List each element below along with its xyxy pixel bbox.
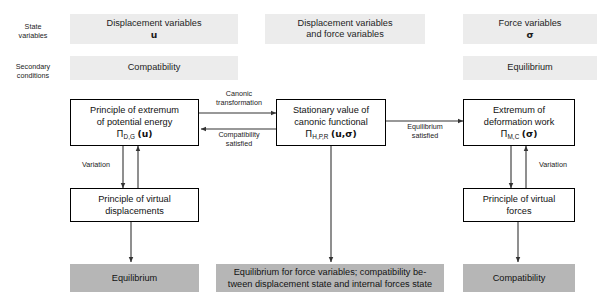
banner-displacement-variables-symbol: u bbox=[107, 29, 202, 41]
row-label-secondary-conditions: Secondary conditions bbox=[4, 62, 62, 80]
caption-compatibility-satisfied: Compatibility satisfied bbox=[204, 131, 274, 148]
caption-compatibility-satisfied-line2: satisfied bbox=[204, 140, 274, 149]
row-label-state-variables-line2: variables bbox=[4, 31, 62, 40]
banner-compatibility: Compatibility bbox=[70, 56, 238, 80]
banner-displacement-and-force-variables: Displacement variables and force variabl… bbox=[265, 14, 425, 44]
row-label-secondary-conditions-line1: Secondary bbox=[4, 62, 62, 71]
node-potential-energy-formula: ΠD,G (u) bbox=[71, 128, 198, 141]
node-deformation-work-pi: Π bbox=[501, 128, 508, 139]
banner-compatibility-label: Compatibility bbox=[128, 62, 181, 74]
node-deformation-work[interactable]: Extremum of deformation work ΠM,C (σ) bbox=[463, 99, 575, 146]
caption-canonic-transformation: Canonic transformation bbox=[204, 90, 274, 107]
result-compatibility: Compatibility bbox=[463, 264, 575, 292]
banner-displacement-variables-line1: Displacement variables bbox=[107, 18, 202, 30]
node-canonic-functional-line1: Stationary value of bbox=[277, 104, 385, 116]
node-deformation-work-formula: ΠM,C (σ) bbox=[464, 128, 574, 141]
banner-displacement-and-force-variables-line1: Displacement variables bbox=[298, 18, 393, 30]
banner-displacement-and-force-variables-line2: and force variables bbox=[298, 29, 393, 41]
node-potential-energy-subscript: D,G bbox=[124, 133, 135, 140]
banner-equilibrium-label: Equilibrium bbox=[507, 62, 552, 74]
connector-layer bbox=[0, 0, 611, 300]
node-potential-energy[interactable]: Principle of extremum of potential energ… bbox=[70, 99, 199, 146]
node-virtual-forces-line1: Principle of virtual bbox=[464, 193, 574, 205]
result-equilibrium: Equilibrium bbox=[70, 264, 199, 292]
node-deformation-work-line1: Extremum of bbox=[464, 104, 574, 116]
node-deformation-work-args: (σ) bbox=[522, 128, 538, 139]
caption-variation-left-label: Variation bbox=[73, 161, 119, 170]
node-virtual-forces[interactable]: Principle of virtual forces bbox=[463, 188, 575, 222]
caption-variation-left: Variation bbox=[73, 161, 119, 170]
caption-variation-right-label: Variation bbox=[530, 161, 576, 170]
node-deformation-work-subscript: M,C bbox=[508, 133, 520, 140]
node-virtual-displacements-line2: displacements bbox=[71, 205, 198, 217]
result-mixed: Equilibrium for force variables; compati… bbox=[216, 264, 444, 292]
node-deformation-work-line2: deformation work bbox=[464, 116, 574, 128]
variational-principles-diagram: State variables Secondary conditions Dis… bbox=[0, 0, 611, 300]
row-label-state-variables: State variables bbox=[4, 22, 62, 40]
result-compatibility-label: Compatibility bbox=[493, 272, 546, 284]
node-potential-energy-args: (u) bbox=[137, 128, 152, 139]
caption-variation-right: Variation bbox=[530, 161, 576, 170]
caption-equilibrium-satisfied: Equilibrium satisfied bbox=[390, 123, 460, 140]
result-mixed-line2: tween displacement state and internal fo… bbox=[228, 278, 432, 290]
banner-equilibrium: Equilibrium bbox=[463, 56, 597, 80]
result-mixed-line1: Equilibrium for force variables; compati… bbox=[228, 266, 432, 278]
node-potential-energy-line2: of potential energy bbox=[71, 116, 198, 128]
node-canonic-functional-args: (u,σ) bbox=[331, 128, 357, 139]
result-equilibrium-label: Equilibrium bbox=[112, 272, 157, 284]
row-label-secondary-conditions-line2: conditions bbox=[4, 71, 62, 80]
banner-force-variables: Force variables σ bbox=[463, 14, 597, 44]
node-potential-energy-line1: Principle of extremum bbox=[71, 104, 198, 116]
node-canonic-functional-formula: ΠH,P,R (u,σ) bbox=[277, 128, 385, 141]
banner-force-variables-line1: Force variables bbox=[499, 18, 562, 30]
row-label-state-variables-line1: State bbox=[4, 22, 62, 31]
banner-displacement-variables: Displacement variables u bbox=[70, 14, 238, 44]
node-potential-energy-pi: Π bbox=[117, 128, 124, 139]
caption-canonic-transformation-line2: transformation bbox=[204, 99, 274, 108]
caption-equilibrium-satisfied-line2: satisfied bbox=[390, 132, 460, 141]
node-virtual-displacements[interactable]: Principle of virtual displacements bbox=[70, 188, 199, 222]
node-virtual-displacements-line1: Principle of virtual bbox=[71, 193, 198, 205]
node-canonic-functional[interactable]: Stationary value of canonic functional Π… bbox=[276, 99, 386, 146]
node-canonic-functional-line2: canonic functional bbox=[277, 116, 385, 128]
banner-force-variables-symbol: σ bbox=[499, 29, 562, 41]
node-canonic-functional-subscript: H,P,R bbox=[312, 133, 328, 140]
node-virtual-forces-line2: forces bbox=[464, 205, 574, 217]
